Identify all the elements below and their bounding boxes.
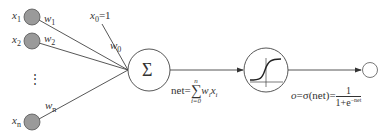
label-w2: w2 [44, 33, 55, 47]
label-x1: x1 [12, 10, 21, 24]
output-node [363, 63, 378, 78]
label-wn: wn [45, 100, 56, 114]
input-node-xn [24, 114, 40, 130]
net-formula: net=n∑i=0wixi [171, 78, 218, 104]
summation-symbol: Σ [142, 60, 152, 81]
output-formula: o=σ(net)=11+e−net [291, 85, 361, 108]
ellipsis: ⋮ [29, 73, 41, 85]
perceptron-diagram [0, 0, 382, 138]
label-xn: xn [12, 115, 21, 129]
label-w0: w0 [110, 40, 121, 54]
input-node-x1 [24, 9, 40, 25]
label-w1: w1 [44, 13, 55, 27]
input-node-x2 [24, 33, 40, 49]
label-x2: x2 [12, 34, 21, 48]
label-x0: x0=1 [90, 10, 111, 24]
